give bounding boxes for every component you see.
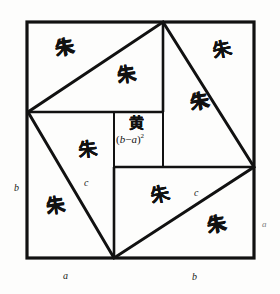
region-char-bottom-center-inner: 朱 [148,183,171,206]
region-char-top-left-outer: 朱 [53,36,75,58]
region-char-bottom-left-outer: 朱 [45,195,66,216]
dimension-label-bottom-left-a: a [63,271,68,281]
region-char-bottom-right-outer: 朱 [205,213,227,235]
region-char-top-center-inner: 朱 [116,64,137,85]
region-char-top-right-outer: 朱 [210,38,233,61]
dimension-label-left-side-b: b [14,183,19,193]
dimension-label-left-diagonal-c: c [84,178,88,188]
region-char-left-inner: 朱 [77,139,98,160]
xiantu-diagram-svg [0,0,280,294]
region-char-center-yellow: 黄 [129,116,144,131]
xiantu-figure: 朱 朱 朱 朱 朱 朱 朱 朱 黄 (b−a)2 b c c a a b [0,0,280,294]
dimension-label-right-side-a: a [262,220,267,229]
center-square-formula: (b−a)2 [116,133,144,145]
dimension-label-right-diagonal-c: c [194,188,198,198]
dimension-label-bottom-right-b: b [192,272,197,282]
region-char-right-inner: 朱 [188,90,210,112]
formula-exponent: 2 [141,132,145,140]
